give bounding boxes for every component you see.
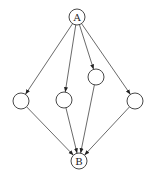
- node-n1: [13, 93, 29, 109]
- node-label: B: [75, 156, 82, 167]
- node-n2: [56, 92, 72, 108]
- edge-A-to-n2: [65, 25, 76, 92]
- edge-n4-to-B: [84, 107, 129, 155]
- edge-A-to-n4: [82, 24, 131, 95]
- node-A: A: [69, 9, 85, 25]
- node-n3: [88, 69, 104, 85]
- edge-n1-to-B: [27, 107, 74, 156]
- node-circle: [13, 93, 29, 109]
- node-circle: [127, 93, 143, 109]
- node-circle: [88, 69, 104, 85]
- node-label: A: [72, 12, 81, 23]
- node-circle: [56, 92, 72, 108]
- edge-n3-to-B: [81, 85, 95, 153]
- node-B: B: [71, 153, 87, 169]
- graph-diagram: AB: [0, 0, 155, 180]
- node-n4: [127, 93, 143, 109]
- edges: [25, 24, 130, 156]
- edge-n2-to-B: [66, 108, 77, 153]
- edge-A-to-n1: [25, 24, 72, 95]
- nodes: AB: [13, 9, 143, 169]
